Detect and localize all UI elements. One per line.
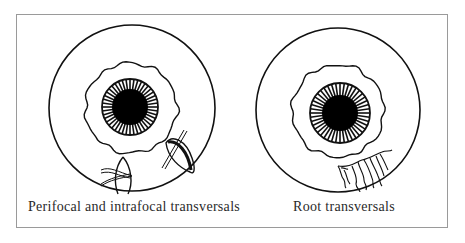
right-eye-pupil xyxy=(322,95,358,131)
perifocal-lesion xyxy=(162,130,194,173)
caption-perifocal-intrafocal: Perifocal and intrafocal transversals xyxy=(28,199,240,215)
left-eye xyxy=(49,25,215,194)
right-eye xyxy=(256,28,420,192)
left-eye-pupil xyxy=(112,89,148,125)
caption-root-transversals: Root transversals xyxy=(293,199,395,215)
intrafocal-lesion xyxy=(101,157,132,194)
